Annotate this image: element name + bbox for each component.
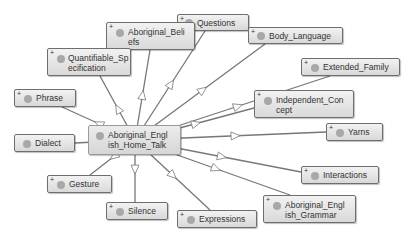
node-aboriginal-english-grammar[interactable]: + Aboriginal_Engl ish_Grammar [263,195,356,223]
node-body-language[interactable]: + Body_Language [248,27,343,44]
expand-icon[interactable]: + [180,210,184,220]
node-label: Yarns [348,127,370,137]
node-phrase[interactable]: + Phrase [14,89,76,107]
node-quantifiable-specification[interactable]: + Quantifiable_Sp ecification [47,48,131,76]
class-icon [116,208,124,216]
node-label: Independent_Con cept [276,95,344,115]
arrowhead-icon [231,132,240,140]
class-icon [23,140,31,148]
expand-icon[interactable]: + [50,175,54,185]
expand-icon[interactable]: + [17,89,21,99]
node-gesture[interactable]: + Gesture [47,175,112,193]
node-aboriginal-english-home-talk[interactable]: Aboriginal_Engl ish_Home_Talk [88,125,181,155]
arrowhead-icon [138,91,146,101]
class-icon [273,202,281,210]
class-icon [96,132,104,140]
node-aboriginal-beliefs[interactable]: + Aboriginal_Beli efs [106,22,195,50]
node-label: Quantifiable_Sp ecification [68,53,129,73]
node-interactions[interactable]: + Interactions [301,166,379,184]
node-label: Phrase [36,93,63,103]
node-label: Gesture [69,179,99,189]
class-icon [24,95,32,103]
class-icon [187,216,195,224]
class-icon [257,32,265,40]
expand-icon[interactable]: + [109,202,113,212]
class-icon [311,64,319,72]
node-label: Aboriginal_Engl ish_Grammar [285,200,345,220]
expand-icon[interactable]: + [109,22,113,32]
class-icon [264,97,272,105]
class-icon [57,55,65,63]
expand-icon[interactable]: + [266,195,270,205]
expand-icon[interactable]: + [50,48,54,58]
arrowhead-icon [165,80,173,90]
class-icon [336,129,344,137]
expand-icon[interactable]: + [257,90,261,100]
node-label: Aboriginal_Engl ish_Home_Talk [108,130,168,150]
node-independent-concept[interactable]: + Independent_Con cept [254,90,354,118]
node-label: Aboriginal_Beli efs [128,27,185,47]
node-yarns[interactable]: + Yarns [326,123,383,141]
node-dialect[interactable]: Dialect [14,134,75,152]
arrowhead-icon [232,104,242,112]
node-label: Questions [197,18,235,28]
arrowhead-icon [131,165,139,174]
class-icon [57,181,65,189]
class-icon [116,29,124,37]
node-expressions[interactable]: + Expressions [177,210,257,228]
node-label: Silence [128,206,156,216]
node-label: Interactions [323,170,367,180]
node-label: Body_Language [269,31,331,41]
node-label: Extended_Family [323,62,389,72]
expand-icon[interactable]: + [304,58,308,68]
expand-icon[interactable]: + [251,27,255,37]
expand-icon[interactable]: + [329,123,333,133]
arrowhead-icon [197,87,207,96]
expand-icon[interactable]: + [304,166,308,176]
class-icon [311,172,319,180]
arrowhead-icon [116,105,124,115]
arrowhead-icon [217,152,227,160]
arrowhead-icon [191,121,201,129]
node-label: Dialect [35,138,61,148]
node-silence[interactable]: + Silence [106,202,168,220]
arrowhead-icon [210,163,220,171]
ontology-graph-canvas: Aboriginal_Engl ish_Home_Talk + Question… [0,0,409,242]
node-label: Expressions [199,214,245,224]
node-extended-family[interactable]: + Extended_Family [301,58,400,76]
